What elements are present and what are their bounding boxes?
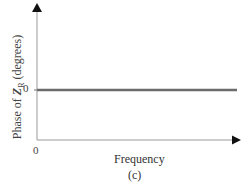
y-axis-label-suffix: (degrees) — [10, 35, 24, 83]
y-axis-label-prefix: Phase of — [10, 95, 24, 139]
figure-caption: (c) — [128, 168, 141, 183]
y-tick-zero: 0 — [23, 82, 29, 94]
x-tick-zero: 0 — [33, 144, 39, 156]
x-axis-label: Frequency — [114, 152, 165, 167]
y-axis-arrow-icon — [32, 3, 42, 12]
x-axis-arrow-icon — [232, 136, 241, 145]
y-axis-label-symbol: Z — [10, 88, 24, 95]
